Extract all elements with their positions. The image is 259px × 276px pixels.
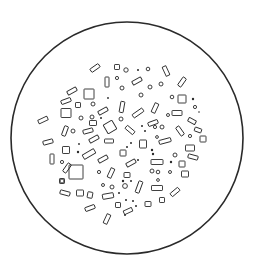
crystal-particle bbox=[188, 117, 197, 124]
dot-particle bbox=[170, 161, 172, 163]
dot-particle bbox=[97, 170, 100, 173]
dot-particle bbox=[60, 160, 63, 163]
dot-particle bbox=[91, 102, 95, 106]
dot-particle bbox=[122, 180, 124, 182]
crystal-particle bbox=[188, 154, 199, 160]
crystal-particle bbox=[76, 103, 81, 108]
dot-particle bbox=[123, 184, 128, 189]
crystal-particle bbox=[50, 154, 54, 164]
dot-particle bbox=[77, 151, 79, 153]
figure-svg bbox=[0, 0, 259, 276]
dot-particle bbox=[150, 169, 154, 173]
crystal-particle bbox=[120, 150, 126, 156]
crystal-particle bbox=[159, 138, 172, 145]
crystal-particle bbox=[172, 111, 182, 116]
dot-particle bbox=[160, 125, 164, 129]
dot-particle bbox=[115, 76, 118, 79]
dot-particle bbox=[102, 184, 105, 187]
crystal-particle bbox=[67, 87, 78, 95]
dot-particle bbox=[130, 180, 132, 182]
dot-particle bbox=[132, 200, 134, 202]
crystal-particle bbox=[62, 163, 71, 173]
dot-particle bbox=[124, 68, 128, 72]
crystal-particle bbox=[170, 187, 180, 196]
crystal-particle bbox=[87, 192, 93, 199]
crystal-particle bbox=[124, 173, 130, 178]
crystal-particle bbox=[132, 77, 143, 85]
crystal-particle bbox=[60, 190, 71, 196]
crystal-particle bbox=[63, 147, 70, 154]
dot-particle bbox=[167, 114, 170, 117]
crystal-particle bbox=[90, 121, 97, 126]
dot-particle bbox=[192, 98, 194, 100]
dot-particle bbox=[188, 134, 191, 137]
crystal-particle bbox=[61, 109, 71, 118]
crystal-particle bbox=[182, 171, 189, 177]
dot-particle bbox=[148, 85, 152, 89]
dot-particle bbox=[152, 153, 154, 155]
crystal-particle bbox=[83, 128, 94, 134]
dot-particle bbox=[198, 111, 200, 113]
crystal-particle bbox=[105, 77, 109, 87]
dot-particle bbox=[78, 143, 80, 145]
dot-particle bbox=[144, 130, 146, 132]
crystal-particle bbox=[89, 135, 100, 143]
crystal-particle bbox=[98, 107, 109, 115]
crystal-particle bbox=[119, 101, 125, 113]
dot-particle bbox=[71, 129, 75, 133]
crystal-particle bbox=[200, 136, 206, 142]
crystal-particle bbox=[186, 145, 195, 151]
dot-particle bbox=[90, 115, 94, 119]
dot-particle bbox=[118, 192, 120, 194]
crystal-particle bbox=[85, 204, 96, 211]
dot-particle bbox=[130, 142, 132, 144]
crystal-particle bbox=[61, 126, 68, 137]
dot-particle bbox=[157, 179, 160, 182]
dot-particle bbox=[125, 199, 127, 201]
dot-particle bbox=[100, 117, 102, 119]
crystal-particle bbox=[84, 89, 94, 99]
crystal-particle bbox=[105, 139, 114, 143]
dot-particle bbox=[151, 149, 153, 151]
dot-particle bbox=[169, 171, 172, 174]
dot-particle bbox=[137, 159, 139, 161]
crystal-particle bbox=[123, 207, 133, 214]
crystal-particle bbox=[194, 127, 202, 133]
crystal-particle bbox=[177, 77, 186, 87]
crystal-particle bbox=[90, 63, 100, 72]
particles-group bbox=[38, 63, 206, 224]
crystal-particle bbox=[152, 186, 163, 191]
dot-particle bbox=[156, 136, 159, 139]
crystal-particle bbox=[151, 160, 163, 165]
dot-particle bbox=[146, 67, 150, 71]
crystal-particle bbox=[69, 165, 83, 179]
crystal-particle bbox=[103, 120, 117, 134]
dot-particle bbox=[159, 82, 163, 86]
crystal-particle bbox=[38, 116, 49, 124]
crystal-particle bbox=[178, 95, 186, 103]
crystal-particle bbox=[107, 168, 115, 179]
dot-particle bbox=[110, 185, 114, 189]
crystal-particle bbox=[98, 155, 109, 163]
dot-particle bbox=[137, 69, 139, 71]
crystal-particle bbox=[61, 97, 72, 104]
dot-particle bbox=[124, 214, 126, 216]
field-of-view-circle bbox=[11, 22, 243, 254]
crystal-particle bbox=[103, 214, 111, 225]
crystal-particle bbox=[115, 65, 120, 70]
dot-particle bbox=[173, 153, 177, 157]
crystal-particle bbox=[116, 203, 121, 208]
crystal-particle bbox=[162, 66, 170, 77]
dot-particle bbox=[135, 205, 137, 207]
crystal-particle bbox=[125, 125, 135, 134]
dot-particle bbox=[107, 97, 109, 99]
dot-particle bbox=[119, 117, 123, 121]
dot-particle bbox=[139, 93, 143, 97]
crystal-particle bbox=[135, 181, 143, 194]
dot-particle bbox=[120, 86, 124, 90]
crystal-particle bbox=[151, 103, 159, 114]
crystal-particle bbox=[140, 140, 147, 148]
crystal-particle bbox=[175, 126, 184, 136]
crystal-particle bbox=[82, 149, 96, 160]
crystal-particle bbox=[145, 202, 151, 207]
